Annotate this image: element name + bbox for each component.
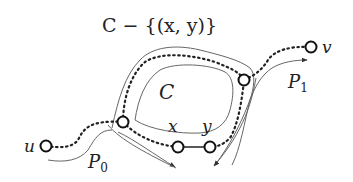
path-p1-label: P1: [287, 71, 308, 95]
path-p1-subscript: 1: [300, 81, 308, 95]
path-p1-name: P: [287, 71, 301, 92]
node-v[interactable]: [306, 42, 317, 53]
cycle-label: C: [159, 80, 174, 104]
inner-cycle-curve: [135, 65, 233, 133]
node-y[interactable]: [205, 142, 216, 153]
node-x-label: x: [168, 116, 178, 136]
node-u-label: u: [24, 136, 35, 156]
p1-curve-down: [214, 78, 256, 166]
node-y-label: y: [201, 116, 212, 136]
outer-region-curve-inner: [118, 132, 175, 167]
dotted-path-b-to-v: [244, 47, 311, 80]
node-x[interactable]: [173, 142, 184, 153]
dotted-path-u-to-a: [46, 122, 123, 147]
path-p0-subscript: 0: [100, 161, 108, 175]
path-p0-label: P0: [87, 151, 108, 175]
title-label: C − {(x, y)}: [102, 14, 217, 36]
diagram-canvas: C − {(x, y)} C u v x y P0 P1: [0, 0, 353, 182]
path-p0-name: P: [87, 151, 101, 172]
node-u[interactable]: [41, 141, 52, 152]
node-v-label: v: [322, 37, 332, 57]
node-cycle-left[interactable]: [118, 117, 129, 128]
node-cycle-right[interactable]: [239, 75, 250, 86]
